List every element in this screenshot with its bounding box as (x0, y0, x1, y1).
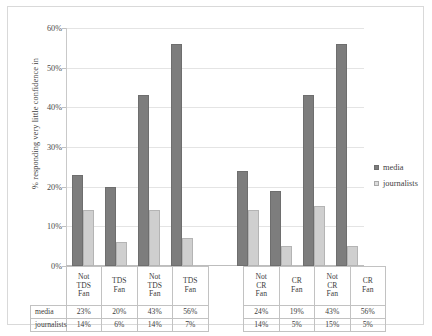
bar-group (198, 28, 231, 266)
table-row-label: media (31, 306, 67, 319)
bar-media[interactable] (138, 95, 149, 266)
plot-area: 0%10%20%30%40%50%60% (66, 28, 364, 266)
bar-group (165, 28, 198, 266)
table-value-cell: 14% (244, 319, 280, 332)
chart-legend: media journalists (374, 163, 418, 195)
table-value-cell: 20% (102, 306, 138, 319)
bar-group (66, 28, 99, 266)
category-label-line: Fan (351, 286, 386, 295)
table-value-cell: 6% (102, 319, 138, 332)
table-value-cell: 5% (279, 319, 315, 332)
bar-group (265, 28, 298, 266)
y-tick-mark (62, 187, 66, 188)
table-value-cell: 19% (279, 306, 315, 319)
bar-media[interactable] (105, 187, 116, 266)
category-label-line: Fan (102, 286, 137, 295)
table-row: journalists14%6%14%7%14%5%15%5% (31, 319, 386, 332)
legend-label-journalists: journalists (383, 179, 418, 188)
table-category-cell: NotTDSFan (137, 267, 173, 306)
bar-media[interactable] (336, 44, 347, 266)
table-value-cell: 56% (350, 306, 386, 319)
bar-group (132, 28, 165, 266)
table-value-cell: 7% (173, 319, 209, 332)
y-tick-label: 10% (47, 222, 62, 231)
y-tick-mark (62, 107, 66, 108)
bar-journalists[interactable] (347, 246, 358, 266)
table-header-row: NotTDSFanTDSFanNotTDSFanTDSFanNotCRFanCR… (31, 267, 386, 306)
y-tick-mark (62, 226, 66, 227)
table-value-cell: 15% (315, 319, 351, 332)
legend-label-media: media (383, 163, 403, 172)
y-tick-mark (62, 68, 66, 69)
table-corner-cell (31, 267, 67, 306)
bar-journalists[interactable] (149, 210, 160, 266)
table-category-cell: NotTDSFan (66, 267, 102, 306)
bar-group (298, 28, 331, 266)
y-tick-label: 60% (47, 24, 62, 33)
category-label-line: Fan (67, 290, 102, 299)
figure-frame: % responding very little confidence in 0… (7, 6, 424, 325)
bar-media[interactable] (72, 175, 83, 266)
y-tick-label: 30% (47, 143, 62, 152)
bar-group (232, 28, 265, 266)
bar-media[interactable] (171, 44, 182, 266)
table-value-cell: 5% (350, 319, 386, 332)
table-row: media23%20%43%56%24%19%43%56% (31, 306, 386, 319)
y-axis-title: % responding very little confidence in (31, 24, 40, 224)
table-value-cell: 56% (173, 306, 209, 319)
category-label-line: Fan (280, 286, 315, 295)
category-label-line: Fan (138, 290, 173, 299)
table-spacer-cell (208, 267, 244, 306)
table-row-label: journalists (31, 319, 67, 332)
bar-media[interactable] (237, 171, 248, 266)
journalists-swatch-icon (374, 181, 379, 186)
data-table: NotTDSFanTDSFanNotTDSFanTDSFanNotCRFanCR… (30, 266, 386, 332)
y-tick-mark (62, 28, 66, 29)
y-tick-mark (62, 147, 66, 148)
category-label-line: Fan (315, 290, 350, 299)
y-tick-label: 20% (47, 183, 62, 192)
bar-group (331, 28, 364, 266)
table-spacer-cell (208, 306, 244, 319)
table-category-cell: NotCRFan (244, 267, 280, 306)
table-category-cell: TDSFan (102, 267, 138, 306)
y-tick-label: 40% (47, 103, 62, 112)
table-value-cell: 14% (66, 319, 102, 332)
table-category-cell: CRFan (279, 267, 315, 306)
category-label-line: Fan (244, 290, 279, 299)
bar-journalists[interactable] (314, 206, 325, 266)
y-tick-label: 50% (47, 64, 62, 73)
bar-journalists[interactable] (116, 242, 127, 266)
table-category-cell: CRFan (350, 267, 386, 306)
bar-journalists[interactable] (182, 238, 193, 266)
category-label-line: Fan (173, 286, 208, 295)
chart-figure: % responding very little confidence in 0… (0, 0, 432, 336)
legend-item-journalists[interactable]: journalists (374, 179, 418, 188)
table-value-cell: 14% (137, 319, 173, 332)
table-category-cell: TDSFan (173, 267, 209, 306)
bar-journalists[interactable] (83, 210, 94, 266)
bar-media[interactable] (303, 95, 314, 266)
table-value-cell: 43% (137, 306, 173, 319)
bar-media[interactable] (270, 191, 281, 266)
table-value-cell: 24% (244, 306, 280, 319)
bar-journalists[interactable] (248, 210, 259, 266)
bar-group (99, 28, 132, 266)
media-swatch-icon (374, 165, 379, 170)
table-value-cell: 43% (315, 306, 351, 319)
legend-item-media[interactable]: media (374, 163, 418, 172)
table-value-cell: 23% (66, 306, 102, 319)
table-category-cell: NotCRFan (315, 267, 351, 306)
bar-groups (66, 28, 364, 266)
bar-journalists[interactable] (281, 246, 292, 266)
table-spacer-cell (208, 319, 244, 332)
